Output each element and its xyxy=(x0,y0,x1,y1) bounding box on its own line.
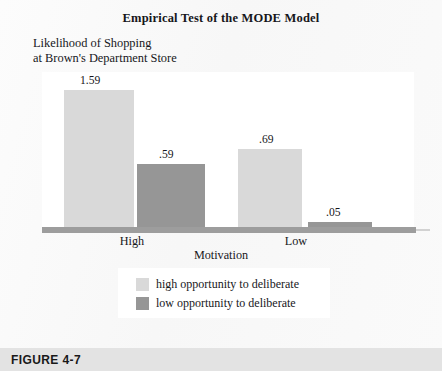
bar-value-low-low-opportunity: .05 xyxy=(326,206,341,219)
bar-value-high-high-opportunity: 1.59 xyxy=(80,74,100,87)
bar-low-high-opportunity xyxy=(238,149,302,227)
x-tick-label-low: Low xyxy=(266,234,326,249)
legend-swatch-icon-high-opportunity xyxy=(136,278,149,291)
bar-high-low-opportunity xyxy=(137,164,205,227)
figure-container: Empirical Test of the MODE Model Likelih… xyxy=(0,0,442,371)
legend-item-low-opportunity: low opportunity to deliberate xyxy=(136,296,296,311)
bar-value-high-low-opportunity: .59 xyxy=(159,148,174,161)
chart-title: Empirical Test of the MODE Model xyxy=(0,11,442,26)
x-axis-line-extension xyxy=(416,229,430,231)
plot-area: 1.59 .59 .69 .05 xyxy=(42,72,414,227)
bars-container: 1.59 .59 .69 .05 xyxy=(42,72,414,227)
bar-value-low-high-opportunity: .69 xyxy=(259,133,274,146)
x-axis-line xyxy=(42,227,416,233)
legend-swatch-icon-low-opportunity xyxy=(136,297,149,310)
bar-high-high-opportunity xyxy=(64,90,134,227)
figure-caption: FIGURE 4-7 xyxy=(11,353,81,367)
x-axis-label: Motivation xyxy=(0,248,442,263)
legend-label-low-opportunity: low opportunity to deliberate xyxy=(156,296,296,311)
y-axis-label: Likelihood of Shopping at Brown's Depart… xyxy=(33,36,177,65)
chart-legend: high opportunity to deliberate low oppor… xyxy=(118,268,330,318)
legend-label-high-opportunity: high opportunity to deliberate xyxy=(156,277,299,292)
legend-item-high-opportunity: high opportunity to deliberate xyxy=(136,277,299,292)
x-tick-label-high: High xyxy=(102,234,162,249)
